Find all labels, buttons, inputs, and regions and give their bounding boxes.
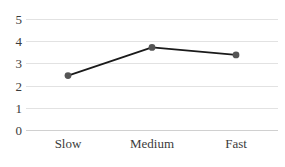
gridline-0 bbox=[26, 130, 278, 131]
y-tick-label-4: 4 bbox=[2, 35, 22, 48]
series-markers bbox=[65, 44, 240, 79]
series-line-group bbox=[26, 19, 278, 130]
y-tick-label-2: 2 bbox=[2, 80, 22, 93]
line-chart: 5 4 3 2 1 0 Slow Medium Fast bbox=[0, 0, 285, 167]
x-tick-label-slow: Slow bbox=[55, 136, 82, 151]
y-axis: 5 4 3 2 1 0 bbox=[0, 19, 22, 130]
series-line bbox=[68, 47, 236, 75]
data-point-fast bbox=[233, 52, 240, 59]
plot-area bbox=[26, 19, 278, 130]
data-point-slow bbox=[65, 72, 72, 79]
x-tick-label-medium: Medium bbox=[130, 136, 174, 151]
y-tick-label-5: 5 bbox=[2, 13, 22, 26]
x-tick-label-fast: Fast bbox=[225, 136, 247, 151]
y-tick-label-1: 1 bbox=[2, 102, 22, 115]
y-tick-label-0: 0 bbox=[2, 124, 22, 137]
data-point-medium bbox=[149, 44, 156, 51]
x-axis: Slow Medium Fast bbox=[26, 136, 278, 158]
y-tick-label-3: 3 bbox=[2, 57, 22, 70]
